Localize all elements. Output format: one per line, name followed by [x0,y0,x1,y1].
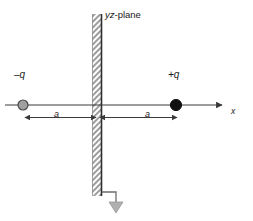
yz-plane-label: yz-plane [105,10,141,20]
positive-charge-marker [170,99,181,110]
positive-charge-label: +q [168,70,179,80]
diagram-vector-layer [0,0,253,221]
distance-right-label: a [145,110,150,119]
x-axis-label: x [231,107,235,116]
ground-symbol [102,192,123,213]
negative-charge-marker [18,100,28,110]
physics-diagram-canvas: yz-plane –q +q x a a [0,0,253,221]
yz-plane-label-rest: -plane [115,9,141,20]
distance-left-label: a [54,110,59,119]
negative-charge-label: –q [14,70,25,80]
yz-plane-label-italic: yz [105,9,115,20]
